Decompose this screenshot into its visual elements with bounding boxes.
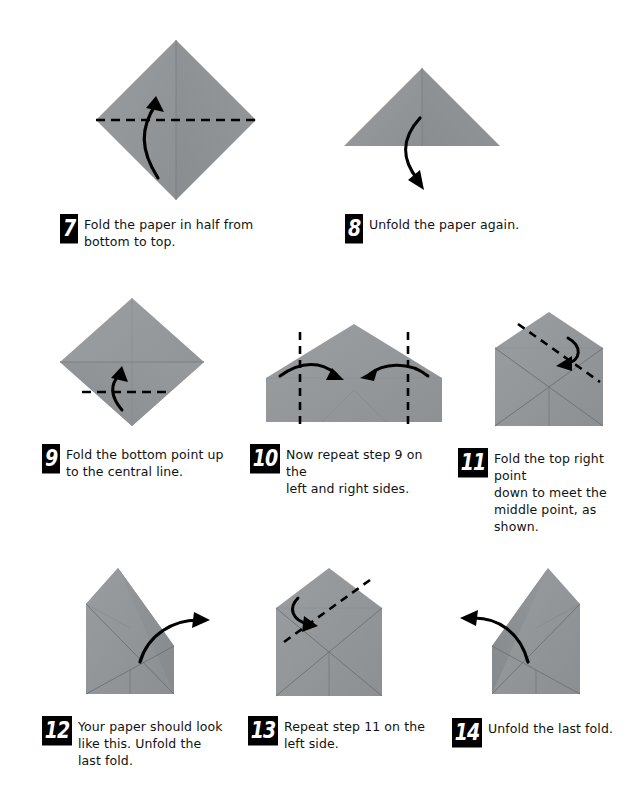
step-8-text: Unfold the paper again. [369,214,519,233]
step-13-figure [258,562,400,702]
diagram-diamond-bottom-point-up [48,292,223,442]
step-13-badge: 13 [248,716,278,746]
step-8-figure [322,62,522,202]
paper-pentagon [266,324,442,422]
step-7-text: Fold the paper in half from bottom to to… [84,214,253,250]
step-7-figure [88,28,268,208]
step-9-text: Fold the bottom point up to the central … [66,444,224,480]
step-11-figure [488,308,610,430]
step-11-badge: 11 [458,448,488,478]
step-12-badge: 12 [42,716,72,746]
step-14-caption: 14 Unfold the last fold. [452,718,627,743]
step-12-text: Your paper should look like this. Unfold… [78,716,223,769]
step-9-caption: 9 Fold the bottom point up to the centra… [42,444,232,480]
step-10-figure [262,320,447,432]
step-10-caption: 10 Now repeat step 9 on the left and rig… [250,444,435,497]
diagram-diamond-fold-in-half [88,28,268,208]
diagram-envelope-folded-left [452,562,597,702]
step-7-badge: 7 [60,214,78,244]
diagram-envelope-folded-right [74,562,214,702]
instruction-sheet: 7 Fold the paper in half from bottom to … [0,0,627,799]
step-14-badge: 14 [452,718,482,748]
step-10-text: Now repeat step 9 on the left and right … [286,444,435,497]
step-9-badge: 9 [42,444,60,474]
step-14-text: Unfold the last fold. [488,718,613,737]
step-13-caption: 13 Repeat step 11 on the left side. [248,716,433,752]
step-9-figure [48,292,223,442]
step-7-caption: 7 Fold the paper in half from bottom to … [60,214,290,250]
step-10-badge: 10 [250,444,280,474]
step-8-badge: 8 [345,214,363,244]
diagram-envelope-top-right-fold [488,308,610,430]
step-14-figure [452,562,597,702]
paper-right-half [422,68,500,146]
diagram-envelope-top-left-fold [258,562,400,702]
step-11-caption: 11 Fold the top right point down to meet… [458,448,627,535]
step-8-caption: 8 Unfold the paper again. [345,214,595,239]
step-12-caption: 12 Your paper should look like this. Unf… [42,716,232,769]
step-13-text: Repeat step 11 on the left side. [284,716,425,752]
step-12-figure [74,562,214,702]
step-11-text: Fold the top right point down to meet th… [494,448,627,535]
diagram-triangle-unfold [322,62,522,202]
diagram-pentagon-sides-in [262,320,447,432]
